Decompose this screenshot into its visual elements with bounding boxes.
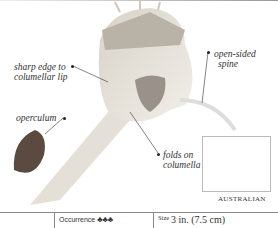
label-folds-on-columella: folds oncolumella <box>163 150 200 170</box>
occurrence-icon: ♣♣♣ <box>97 215 113 224</box>
label-sharp-edge: sharp edge tocolumellar lip <box>14 62 68 82</box>
map-caption: AUSTRALIAN <box>218 195 266 203</box>
map-australia-icon <box>202 136 271 192</box>
label-open-sided-spine: open-sidedspine <box>214 49 256 69</box>
leader-dot <box>157 153 160 156</box>
size-label: Size <box>158 214 169 221</box>
label-operculum: operculum <box>16 113 56 123</box>
leader-dot <box>71 65 74 68</box>
info-bar: Occurrence ♣♣♣ Size 3 in. (7.5 cm) <box>0 212 278 228</box>
size-value: 3 in. (7.5 cm) <box>171 214 225 225</box>
leader-dot <box>207 51 210 54</box>
size-cell: Size 3 in. (7.5 cm) <box>153 213 229 228</box>
occurrence-cell: Occurrence ♣♣♣ <box>54 213 117 228</box>
occurrence-label: Occurrence <box>59 216 95 223</box>
leader-dot <box>63 117 66 120</box>
